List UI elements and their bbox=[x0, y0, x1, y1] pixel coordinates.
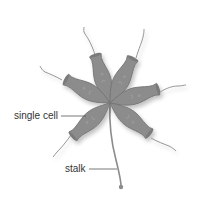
stalk-label: stalk bbox=[65, 164, 86, 174]
flagellum bbox=[84, 27, 95, 55]
colony-illustration bbox=[0, 0, 199, 207]
flagellum bbox=[151, 138, 176, 151]
single-cell-label: single cell bbox=[14, 111, 58, 121]
stalk-base-knob bbox=[119, 185, 123, 189]
flagellum bbox=[136, 29, 144, 58]
cell-lower-left bbox=[66, 97, 115, 144]
flagellum bbox=[53, 135, 71, 157]
colony-diagram: single cell stalk bbox=[0, 0, 199, 207]
flagellum bbox=[40, 66, 62, 80]
flagellum bbox=[160, 85, 186, 92]
